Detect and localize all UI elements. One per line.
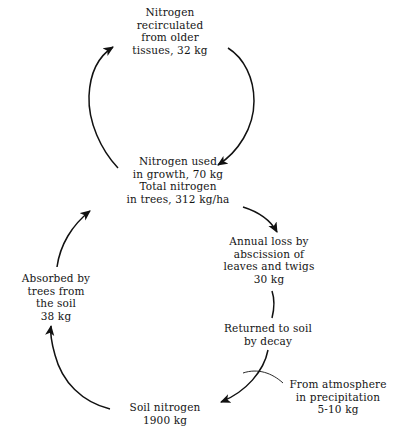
- node-line: Absorbed by: [8, 272, 104, 285]
- nitrogen-cycle-diagram: Nitrogen recirculated from older tissues…: [0, 0, 398, 443]
- node-line: in trees, 312 kg/ha: [107, 193, 249, 206]
- node-line: From atmosphere: [280, 378, 396, 391]
- node-soil-nitrogen: Soil nitrogen 1900 kg: [112, 401, 218, 426]
- node-line: Annual loss by: [205, 235, 333, 248]
- node-line: leaves and twigs: [205, 260, 333, 273]
- arrow-growth-to-annual-loss: [243, 207, 277, 232]
- node-line: the soil: [8, 297, 104, 310]
- arrow-absorbed-to-growth: [57, 211, 90, 267]
- node-line: trees from: [8, 285, 104, 298]
- node-line: 38 kg: [8, 310, 104, 323]
- node-line: Soil nitrogen: [112, 401, 218, 414]
- node-line: by decay: [207, 335, 329, 348]
- arrow-annual-loss-to-returned: [272, 291, 274, 318]
- node-nitrogen-in-growth: Nitrogen used in growth, 70 kg Total nit…: [107, 155, 249, 205]
- node-nitrogen-recirculated: Nitrogen recirculated from older tissues…: [103, 6, 237, 56]
- arrow-recirculated-to-growth: [218, 48, 254, 165]
- node-line: Nitrogen: [103, 6, 237, 19]
- flow-arrows-layer: [0, 0, 398, 443]
- node-line: recirculated: [103, 19, 237, 32]
- node-line: abscission of: [205, 248, 333, 261]
- node-line: from older: [103, 31, 237, 44]
- arrow-growth-to-recirculated: [89, 47, 118, 168]
- node-line: 30 kg: [205, 273, 333, 286]
- arrow-returned-to-soil-nitrogen: [221, 350, 268, 402]
- node-line: Returned to soil: [207, 322, 329, 335]
- node-line: 1900 kg: [112, 414, 218, 427]
- node-line: Total nitrogen: [107, 180, 249, 193]
- node-line: Nitrogen used: [107, 155, 249, 168]
- node-absorbed-by-trees: Absorbed by trees from the soil 38 kg: [8, 272, 104, 322]
- node-line: 5-10 kg: [280, 403, 396, 416]
- node-line: tissues, 32 kg: [103, 44, 237, 57]
- node-line: in growth, 70 kg: [107, 168, 249, 181]
- leader-atmosphere-to-loop: [243, 371, 283, 383]
- node-annual-loss: Annual loss by abscission of leaves and …: [205, 235, 333, 285]
- node-line: in precipitation: [280, 391, 396, 404]
- node-returned-to-soil: Returned to soil by decay: [207, 322, 329, 347]
- arrow-soil-to-absorbed: [51, 326, 110, 409]
- node-from-atmosphere: From atmosphere in precipitation 5-10 kg: [280, 378, 396, 416]
